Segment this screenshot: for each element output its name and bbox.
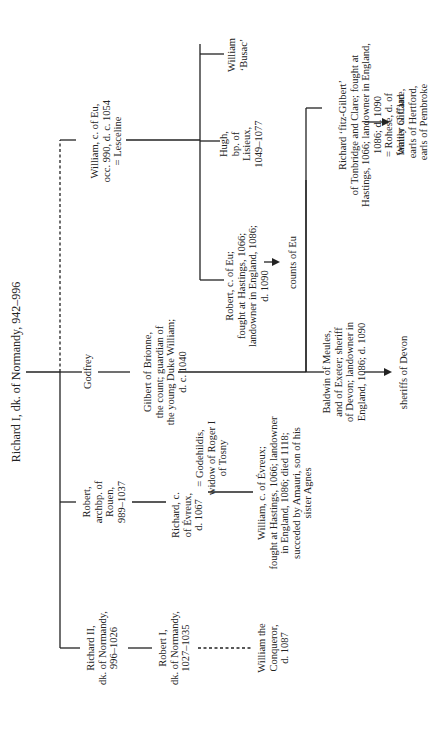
person-richard-i: Richard I, dk. of Normandy, 942–996 — [10, 262, 24, 482]
person-robert-i: Robert I, dk. of Normandy, 1027–1035 — [157, 603, 193, 693]
person-gilbert-of-brionne: Gilbert of Brionne, the count; guardian … — [142, 309, 190, 435]
spouse-godehildis: = Godehildis, widow of Roger I of Tosny — [194, 406, 230, 510]
person-robert-archbishop: Robert, archbp. of Rouen, 989–1037 — [81, 469, 129, 535]
descendants-family-of-clare: family of Clare, earls of Hertford, earl… — [395, 77, 431, 167]
descendants-counts-of-eu: counts of Eu — [287, 228, 300, 298]
person-robert-count-of-eu: Robert, c. of Eu; fought at Hastings, 10… — [224, 220, 272, 352]
person-william-count-of-evreux: William, c. of Évreux; fought at Hasting… — [256, 396, 314, 590]
person-godfrey: Godfrey — [82, 350, 95, 394]
person-william-the-conqueror: William the Conqueror, d. 1087 — [256, 613, 292, 683]
person-william-count-of-eu: William, c. of Eu, occ. 990, d. c. 1054 … — [89, 86, 125, 196]
genealogy-diagram: Richard I, dk. of Normandy, 942–996 Rich… — [0, 0, 442, 735]
person-hugh-bishop-of-lisieux: Hugh, bp. of Lisieux, 1049–1077 — [218, 116, 266, 172]
descendants-sheriffs-of-devon: sheriffs of Devon — [398, 331, 411, 415]
person-william-busac: William ‘Busac’ — [226, 33, 250, 77]
person-baldwin-of-meules: Baldwin of Meules, and of Exeter; sherif… — [321, 310, 369, 434]
person-richard-ii: Richard II, dk. of Normandy, 996–1026 — [85, 603, 121, 693]
